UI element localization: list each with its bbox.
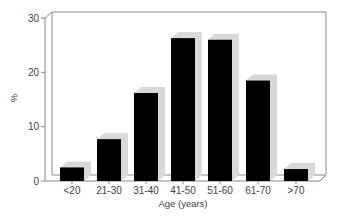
x-tick-label: 41-50 — [170, 185, 196, 196]
y-tick-label: 10 — [28, 121, 40, 132]
bar-61-70 — [246, 74, 277, 181]
bar-front — [208, 40, 232, 181]
bar-front — [246, 80, 270, 181]
bar->70 — [284, 163, 315, 181]
bar-<20 — [60, 161, 91, 181]
bar-front — [171, 38, 195, 181]
x-tick-label: 51-60 — [207, 185, 233, 196]
x-tick-label: <20 — [64, 185, 81, 196]
y-tick-label: 20 — [28, 67, 40, 78]
x-tick-label: 61-70 — [245, 185, 271, 196]
bar-41-50 — [171, 32, 202, 181]
bar-21-30 — [97, 133, 128, 181]
y-tick-label: 30 — [28, 13, 40, 24]
bar-31-40 — [134, 87, 165, 181]
x-tick-label: 21-30 — [96, 185, 122, 196]
y-axis-label: % — [8, 93, 19, 102]
bar-front — [284, 169, 308, 181]
x-axis-label: Age (years) — [158, 198, 207, 209]
bar-front — [134, 93, 158, 181]
bar-51-60 — [208, 34, 239, 181]
x-tick-label: >70 — [288, 185, 305, 196]
y-axis-ticks: 0102030 — [28, 13, 45, 187]
x-tick-label: 31-40 — [133, 185, 159, 196]
y-tick-label: 0 — [33, 176, 39, 187]
age-distribution-bar-chart: 0102030 <2021-3031-4041-5051-6061-70>70 … — [0, 0, 340, 219]
x-axis-ticks: <2021-3031-4041-5051-6061-70>70 — [64, 181, 305, 196]
bars — [60, 32, 315, 181]
bar-front — [97, 139, 121, 181]
bar-front — [60, 167, 84, 181]
